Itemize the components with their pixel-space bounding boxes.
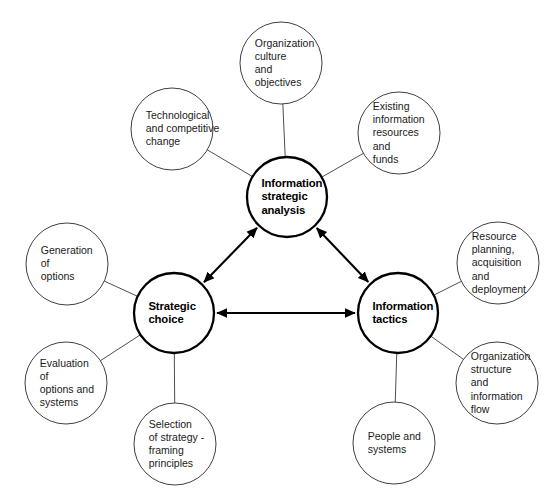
node-information-strategic-analysis[interactable] (247, 157, 327, 237)
figure-caption (8, 490, 308, 501)
diagram-canvas (0, 0, 556, 501)
satellite-circles (25, 22, 539, 485)
core-connector-arrows (204, 228, 368, 313)
node-strategic-choice[interactable] (134, 273, 214, 353)
node-information-tactics[interactable] (358, 273, 438, 353)
core-circles (134, 157, 438, 353)
spoke-evaluation-of-options-and-systems (100, 335, 140, 361)
node-organization-structure-and-information-flow[interactable] (456, 342, 538, 424)
node-resource-planning-acquisition-and-deployment[interactable] (457, 222, 539, 304)
spoke-people-and-systems (395, 353, 397, 402)
node-generation-of-options[interactable] (26, 223, 108, 305)
connector-analysis-to-choice (204, 228, 257, 282)
spoke-resource-planning-acquisition-and-deployment (434, 281, 462, 295)
spoke-organization-structure-and-information-flow (431, 336, 464, 359)
node-people-and-systems[interactable] (353, 402, 435, 484)
node-existing-information-resources-and-funds[interactable] (358, 92, 440, 174)
node-technological-and-competitive-change[interactable] (131, 88, 213, 170)
diagram-root: Organization culture and objectivesTechn… (0, 0, 556, 501)
spoke-generation-of-options (104, 281, 137, 296)
spoke-existing-information-resources-and-funds (322, 153, 364, 177)
spoke-organization-culture-and-objectives (283, 104, 285, 157)
node-evaluation-of-options-and-systems[interactable] (25, 342, 107, 424)
connector-analysis-to-tactics (317, 228, 369, 282)
node-selection-of-strategy-framing-principles[interactable] (134, 403, 216, 485)
spoke-technological-and-competitive-change (207, 150, 252, 177)
node-organization-culture-and-objectives[interactable] (240, 22, 322, 104)
